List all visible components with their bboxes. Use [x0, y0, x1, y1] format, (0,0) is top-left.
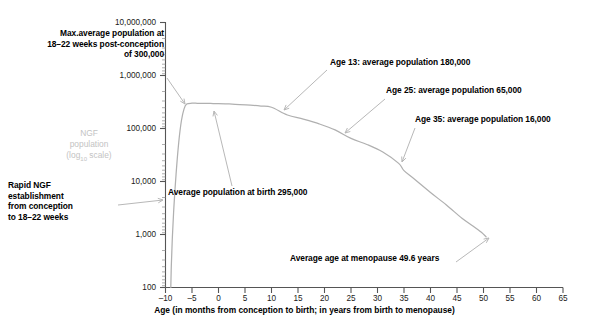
arrow-line-age-13: [284, 70, 327, 110]
y-axis-label-line1: NGF: [80, 128, 98, 138]
xtick-label-20: 20: [310, 294, 340, 303]
xtick-label-35: 35: [389, 294, 419, 303]
arrow-line-age-35: [402, 128, 415, 162]
arrow-line-population-at-birth: [214, 111, 232, 186]
ytick-label-1000: 1,000: [92, 230, 156, 239]
xtick-label--5: –5: [177, 294, 207, 303]
ytick-label-10000000: 10,000,000: [92, 18, 156, 27]
x-axis-label: Age (in months from conception to birth;…: [0, 305, 609, 315]
xtick-label-15: 15: [283, 294, 313, 303]
y-major-ticks: [160, 23, 166, 288]
ytick-label-100: 100: [92, 283, 156, 292]
annotation-menopause: Average age at menopause 49.6 years: [290, 253, 439, 264]
annotation-age-25: Age 25: average population 65,000: [386, 85, 522, 96]
annotation-rapid-establishment: Rapid NGF establishment from conception …: [8, 180, 116, 222]
xtick-label-10: 10: [257, 294, 287, 303]
chart-container: 10,000,000 1,000,000 100,000 10,000 1,00…: [0, 0, 609, 326]
xtick-label-45: 45: [442, 294, 472, 303]
xtick-label-60: 60: [522, 294, 552, 303]
arrow-line-max-population: [167, 78, 185, 104]
y-axis-label-line3-post: scale): [87, 150, 112, 160]
ytick-label-1000000: 1,000,000: [92, 71, 156, 80]
xtick-label-65: 65: [548, 294, 578, 303]
xtick-label-0: 0: [204, 294, 234, 303]
xtick-label-5: 5: [230, 294, 260, 303]
arrow-line-age-25: [345, 99, 385, 133]
annotation-age-35: Age 35: average population 16,000: [415, 114, 551, 125]
arrow-line-rapid-establishment: [118, 200, 163, 205]
y-axis-label-log-base: 10: [80, 156, 87, 162]
annotation-arrows: [118, 70, 489, 262]
x-ticks: [166, 288, 564, 294]
annotation-max-population: Max.average population at 18–22 weeks po…: [4, 28, 164, 60]
xtick-label-50: 50: [469, 294, 499, 303]
xtick-label-55: 55: [495, 294, 525, 303]
annotation-age-13: Age 13: average population 180,000: [330, 57, 470, 68]
xtick-label-40: 40: [416, 294, 446, 303]
xtick-label--10: –10: [151, 294, 181, 303]
y-axis-label: NGFpopulation(log10 scale): [52, 128, 126, 165]
xtick-label-30: 30: [363, 294, 393, 303]
annotation-population-at-birth: Average population at birth 295,000: [168, 187, 368, 198]
arrow-line-menopause: [456, 238, 489, 262]
y-axis-label-line3-pre: (log: [66, 150, 80, 160]
xtick-label-25: 25: [336, 294, 366, 303]
y-axis-label-line2: population: [70, 139, 109, 149]
